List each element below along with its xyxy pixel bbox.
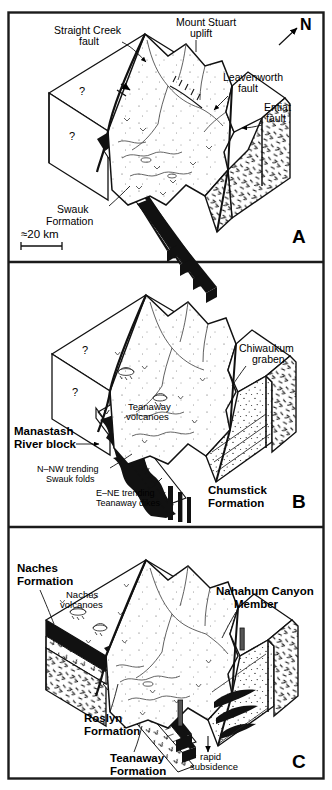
svg-text:fault: fault: [266, 112, 286, 124]
north-arrow-label: N: [300, 16, 312, 33]
panel-letter-b: B: [292, 491, 306, 512]
svg-text:volcanoes: volcanoes: [126, 411, 169, 422]
svg-text:subsidence: subsidence: [190, 761, 238, 772]
query-mark-upper-a: ?: [79, 85, 85, 97]
label-swauk-formation: Swauk: [57, 203, 89, 215]
label-teanaway-dikes: E–NE trending: [96, 488, 155, 498]
svg-text:Formation: Formation: [84, 725, 140, 737]
svg-text:River block: River block: [14, 438, 77, 450]
svg-text:Formation: Formation: [17, 575, 73, 587]
panel-b: Chiwaukum graben Teanaway volcanoes Mana…: [14, 295, 306, 523]
label-chumstick-formation: Chumstick: [208, 484, 267, 496]
scale-bar-label: ≈20 km: [21, 228, 59, 240]
svg-text:Member: Member: [234, 598, 279, 610]
query-mark-upper-b: ?: [82, 344, 88, 356]
figure-root: Straight Creek fault Mount Stuart uplift…: [0, 0, 332, 790]
panel-letter-a: A: [292, 226, 306, 247]
panel-letter-c: C: [292, 751, 306, 772]
svg-text:uplift: uplift: [190, 27, 212, 39]
label-naches-formation: Naches: [17, 562, 58, 574]
panel-c: Naches Formation Naches volcanoes Nahahu…: [17, 560, 314, 777]
query-mark-lower-b: ?: [72, 386, 78, 398]
svg-text:Swauk folds: Swauk folds: [46, 474, 95, 484]
label-roslyn-formation: Roslyn: [84, 712, 122, 724]
svg-text:Formation: Formation: [110, 765, 166, 777]
block-diagram-figure: Straight Creek fault Mount Stuart uplift…: [0, 0, 332, 790]
svg-text:graben: graben: [252, 353, 285, 365]
label-swauk-folds: N–NW trending: [37, 464, 99, 474]
north-arrow: N: [279, 16, 312, 45]
svg-text:fault: fault: [79, 35, 99, 47]
label-nahahum-canyon-member: Nahahum Canyon: [216, 585, 314, 597]
svg-text:fault: fault: [238, 82, 258, 94]
query-mark-lower-a: ?: [69, 130, 75, 142]
panel-a: Straight Creek fault Mount Stuart uplift…: [21, 16, 312, 303]
svg-text:Teanaway dikes: Teanaway dikes: [96, 498, 161, 508]
svg-text:volcanoes: volcanoes: [60, 599, 103, 610]
svg-text:Formation: Formation: [208, 497, 264, 509]
label-teanaway-formation: Teanaway: [110, 752, 165, 764]
scale-bar: ≈20 km: [21, 228, 62, 250]
label-manastash-river-block: Manastash: [14, 425, 73, 437]
svg-text:Formation: Formation: [46, 215, 93, 227]
